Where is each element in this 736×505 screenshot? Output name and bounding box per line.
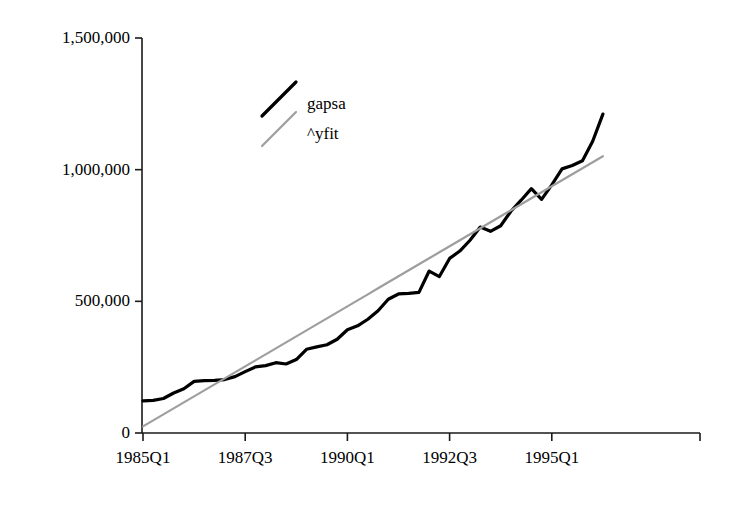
data-series-layer — [143, 114, 603, 426]
y-axis-ticks — [135, 38, 142, 433]
legend-key-gapsa — [262, 82, 296, 116]
legend-item-yfit: ^yfit — [307, 125, 339, 142]
x-axis-ticks — [143, 433, 700, 441]
y-axis-tick-label: 1,500,000 — [62, 29, 130, 46]
legend-item-gapsa: gapsa — [307, 95, 346, 112]
series-line-yfit — [143, 156, 603, 426]
chart-plot-area — [0, 0, 736, 505]
y-axis-tick-label: 500,000 — [75, 292, 130, 309]
legend-key-lines — [262, 82, 296, 146]
y-axis-tick-label: 0 — [122, 424, 131, 441]
x-axis-tick-label: 1995Q1 — [492, 449, 612, 466]
y-axis-tick-label: 1,000,000 — [62, 161, 130, 178]
legend-key-yfit — [262, 112, 296, 146]
chart-container: 0500,0001,000,0001,500,000 1985Q11987Q31… — [0, 0, 736, 505]
series-line-gapsa — [143, 114, 603, 401]
